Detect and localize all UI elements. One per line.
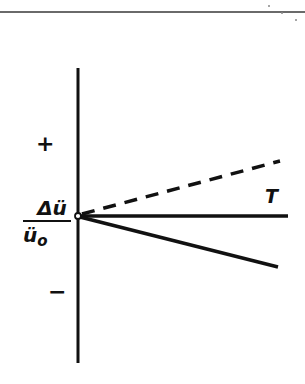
- positive-sign-label: +: [36, 131, 54, 156]
- negative-sign-label: −: [48, 279, 66, 304]
- curve-solid-falling: [80, 217, 278, 267]
- curve-dashed-rising: [82, 161, 280, 214]
- fraction-bar: [23, 220, 71, 222]
- origin-point-icon: [75, 213, 81, 219]
- diagram-canvas: [0, 0, 305, 384]
- quantity-numerator: Δü: [23, 198, 73, 218]
- curve-label-t: T: [265, 185, 278, 207]
- denominator-subscript: o: [37, 232, 47, 250]
- y-axis-quantity-label: Δü üo: [23, 198, 73, 251]
- denominator-base: ü: [23, 223, 37, 247]
- quantity-denominator: üo: [23, 225, 73, 251]
